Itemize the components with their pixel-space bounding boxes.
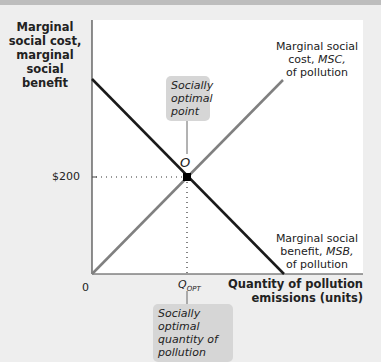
x-tick-qopt: QOPT <box>178 278 201 293</box>
callout-optimal-point: Socially optimal point <box>166 76 210 121</box>
msc-label-line3: of pollution <box>262 66 372 79</box>
y-tick-label: $200 <box>52 170 80 183</box>
msb-label-line1: Marginal social <box>262 232 372 245</box>
qopt-subscript: OPT <box>187 285 201 293</box>
equilibrium-label: O <box>180 155 190 170</box>
origin-label: 0 <box>82 281 89 294</box>
equilibrium-point <box>183 173 191 181</box>
msc-label-line1: Marginal social <box>262 40 372 53</box>
msc-abbr: MSC, <box>318 53 346 66</box>
msb-label-line2: benefit, <box>280 245 326 258</box>
msc-label: Marginal social cost, MSC, of pollution <box>262 40 372 79</box>
qopt-main: Q <box>178 278 187 291</box>
callout-optimal-quantity: Socially optimal quantity of pollution <box>153 304 233 362</box>
msb-label: Marginal social benefit, MSB, of polluti… <box>262 232 372 271</box>
y-axis-label: Marginal social cost, marginal social be… <box>2 20 88 90</box>
x-axis-label: Quantity of pollution emissions (units) <box>223 277 363 305</box>
msb-label-line3: of pollution <box>262 258 372 271</box>
msb-abbr: MSB, <box>326 245 354 258</box>
msc-label-line2: cost, <box>288 53 318 66</box>
